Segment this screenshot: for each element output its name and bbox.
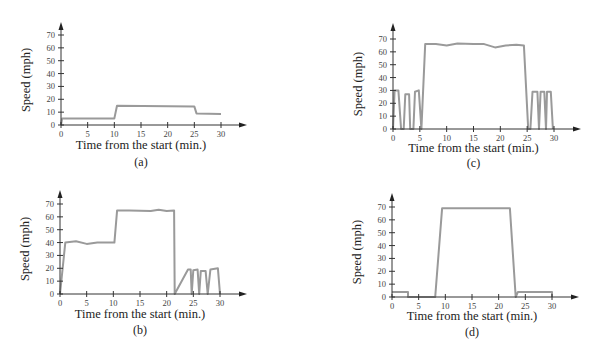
y-axis-title: Speed (mph) [18,217,32,281]
y-tick-label: 50 [379,60,388,70]
y-tick-label: 40 [47,69,56,79]
speed-curve [392,208,552,297]
y-tick-label: 10 [46,276,55,286]
y-tick-label: 60 [378,215,387,225]
y-tick-label: 20 [47,94,56,104]
x-axis-arrow-icon [239,292,247,297]
panel-label: (c) [467,156,480,170]
y-tick-label: 70 [379,34,388,44]
y-tick-label: 30 [46,250,55,260]
x-axis-arrow-icon [573,127,581,132]
y-axis-arrow-icon [391,23,396,31]
x-tick-label: 0 [391,133,395,143]
y-tick-label: 0 [50,289,54,299]
x-axis-title: Time from the start (min.) [76,138,206,152]
panel-label: (a) [134,155,147,169]
y-tick-label: 60 [47,43,56,53]
y-axis-arrow-icon [59,22,64,30]
chart-panel-c: 051015202530010203040506070Time from the… [351,23,581,170]
y-tick-label: 70 [47,30,56,40]
y-tick-label: 30 [379,85,388,95]
x-axis-arrow-icon [571,295,579,300]
y-axis-arrow-icon [58,190,63,198]
y-axis-title: Speed (mph) [351,52,365,116]
speed-curve [393,44,553,130]
chart-panel-d: 051015202530010203040506070Time from the… [350,193,579,339]
panel-label: (d) [465,325,479,339]
x-tick-label: 0 [59,129,63,139]
y-tick-label: 60 [379,47,388,57]
y-tick-label: 10 [379,111,388,121]
x-axis-title: Time from the start (min.) [408,141,538,155]
y-axis-arrow-icon [390,193,395,201]
y-tick-label: 20 [378,266,387,276]
y-tick-label: 30 [47,81,56,91]
y-tick-label: 50 [378,228,387,238]
panel-label: (b) [133,323,147,337]
x-axis-arrow-icon [239,123,247,128]
speed-curve [60,210,220,294]
x-tick-label: 30 [216,298,225,308]
y-tick-label: 70 [46,199,55,209]
x-axis-title: Time from the start (min.) [407,309,537,323]
x-tick-label: 30 [548,301,557,311]
y-tick-label: 50 [47,56,56,66]
y-tick-label: 0 [51,120,55,130]
y-tick-label: 40 [378,241,387,251]
chart-panel-a: 051015202530010203040506070Time from the… [19,22,247,169]
figure: 051015202530010203040506070Time from the… [0,0,601,358]
y-tick-label: 40 [46,238,55,248]
x-tick-label: 30 [550,133,559,143]
y-tick-label: 20 [46,263,55,273]
y-axis-title: Speed (mph) [350,220,364,284]
y-tick-label: 30 [378,253,387,263]
x-tick-label: 0 [390,301,394,311]
x-tick-label: 0 [58,298,62,308]
y-tick-label: 40 [379,73,388,83]
y-tick-label: 20 [379,98,388,108]
x-tick-label: 30 [217,129,226,139]
y-tick-label: 60 [46,212,55,222]
y-tick-label: 10 [378,279,387,289]
x-axis-title: Time from the start (min.) [75,307,205,321]
y-tick-label: 70 [378,202,387,212]
y-tick-label: 50 [46,225,55,235]
y-tick-label: 0 [383,124,387,134]
y-tick-label: 0 [382,292,386,302]
y-tick-label: 10 [47,107,56,117]
y-axis-title: Speed (mph) [19,48,33,112]
chart-panel-b: 051015202530010203040506070Time from the… [18,190,247,337]
